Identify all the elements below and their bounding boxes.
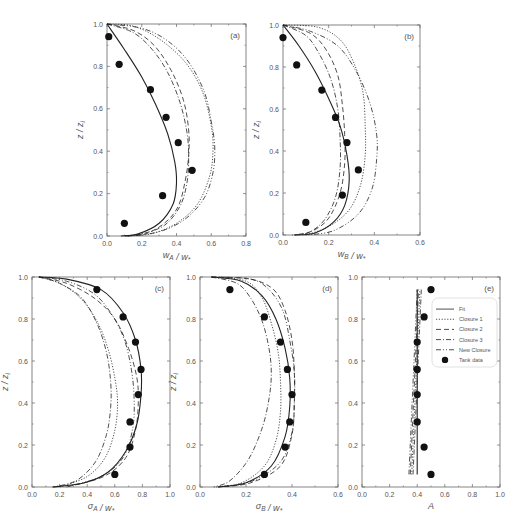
x-axis-label: σA / w* bbox=[88, 501, 115, 514]
legend-entry-label: Closure 2 bbox=[459, 326, 483, 332]
tank-data-point bbox=[111, 471, 118, 478]
curve-closure-2 bbox=[107, 24, 189, 236]
y-tick-label: 0.8 bbox=[18, 316, 28, 323]
y-tick-label: 0.2 bbox=[186, 442, 196, 449]
y-tick-label: 1.0 bbox=[186, 274, 196, 281]
plot-frame bbox=[32, 277, 170, 487]
x-tick-label: 0.4 bbox=[412, 491, 422, 498]
x-tick-label: 0.0 bbox=[102, 240, 112, 247]
y-tick-label: 1.0 bbox=[18, 274, 28, 281]
y-tick-label: 1.0 bbox=[93, 21, 103, 28]
tank-data-point bbox=[427, 286, 434, 293]
tank-data-point bbox=[279, 34, 286, 41]
panel-b: 0.00.20.40.60.00.20.40.60.81.0wB / w*z /… bbox=[251, 22, 425, 263]
tank-data-point bbox=[302, 219, 309, 226]
tank-data-point bbox=[282, 444, 289, 451]
curve-closure-1 bbox=[283, 25, 366, 235]
x-tick-label: 0.8 bbox=[468, 491, 478, 498]
panel-label: (b) bbox=[404, 32, 414, 41]
x-axis-label: A bbox=[427, 501, 434, 511]
y-tick-label: 0.2 bbox=[93, 190, 103, 197]
x-tick-label: 0.0 bbox=[278, 239, 288, 246]
tank-data-point bbox=[162, 114, 169, 121]
y-tick-label: 0.0 bbox=[348, 484, 358, 491]
y-tick-label: 0.4 bbox=[348, 400, 358, 407]
tank-data-point bbox=[414, 366, 421, 373]
tank-data-point bbox=[261, 313, 268, 320]
tank-data-point bbox=[355, 166, 362, 173]
tank-data-point bbox=[147, 86, 154, 93]
panel-label: (d) bbox=[322, 284, 332, 293]
tank-data-point bbox=[318, 87, 325, 94]
x-tick-label: 0.2 bbox=[324, 239, 334, 246]
y-tick-label: 0.6 bbox=[186, 358, 196, 365]
x-tick-label: 0.2 bbox=[137, 240, 147, 247]
tank-data-point bbox=[105, 33, 112, 40]
x-tick-label: 0.2 bbox=[55, 491, 65, 498]
x-axis-label: wB / w* bbox=[338, 249, 366, 262]
tank-data-point bbox=[116, 61, 123, 68]
tank-data-point bbox=[175, 139, 182, 146]
y-axis-label: z / zi bbox=[251, 120, 262, 140]
legend-entry-label: Tank data bbox=[459, 357, 484, 363]
tank-data-point bbox=[339, 192, 346, 199]
y-tick-label: 0.2 bbox=[18, 442, 28, 449]
x-tick-label: 0.6 bbox=[333, 491, 343, 498]
y-tick-label: 0.2 bbox=[348, 442, 358, 449]
y-tick-label: 1.0 bbox=[348, 274, 358, 281]
panel-c: 0.00.20.40.60.81.00.00.20.40.60.81.0σA /… bbox=[0, 274, 175, 515]
curve-closure-2 bbox=[212, 277, 295, 487]
tank-data-point bbox=[126, 418, 133, 425]
plot-frame bbox=[200, 277, 338, 487]
tank-data-point bbox=[414, 339, 421, 346]
legend: FitClosure 1Closure 2Closure 3New Closur… bbox=[432, 298, 497, 367]
tank-data-point bbox=[132, 339, 139, 346]
plot-frame bbox=[283, 25, 420, 235]
y-tick-label: 0.6 bbox=[348, 358, 358, 365]
curve-closure-3 bbox=[283, 25, 341, 235]
tank-data-point bbox=[284, 366, 291, 373]
curve-new-closure bbox=[212, 277, 295, 487]
x-tick-label: 0.0 bbox=[27, 491, 37, 498]
tank-data-point bbox=[137, 366, 144, 373]
curve-closure-3 bbox=[39, 277, 111, 487]
legend-marker-icon bbox=[442, 357, 448, 363]
y-tick-label: 0.6 bbox=[269, 106, 279, 113]
y-tick-label: 0.8 bbox=[93, 63, 103, 70]
x-tick-label: 0.8 bbox=[241, 240, 251, 247]
y-tick-label: 0.0 bbox=[186, 484, 196, 491]
tank-data-point bbox=[121, 220, 128, 227]
tank-data-point bbox=[135, 391, 142, 398]
y-tick-label: 0.4 bbox=[18, 400, 28, 407]
x-tick-label: 1.0 bbox=[165, 491, 175, 498]
tank-data-point bbox=[286, 418, 293, 425]
tank-data-point bbox=[293, 61, 300, 68]
y-tick-label: 1.0 bbox=[269, 22, 279, 29]
y-tick-label: 0.8 bbox=[348, 316, 358, 323]
panel-a: 0.00.20.40.60.80.00.20.40.60.81.0wA / w*… bbox=[75, 21, 251, 264]
x-tick-label: 0.6 bbox=[440, 491, 450, 498]
tank-data-point bbox=[119, 313, 126, 320]
legend-entry-label: New Closure bbox=[459, 347, 490, 353]
x-axis-label: wA / w* bbox=[163, 250, 191, 263]
y-tick-label: 0.4 bbox=[93, 148, 103, 155]
y-tick-label: 0.8 bbox=[186, 316, 196, 323]
tank-data-point bbox=[332, 114, 339, 121]
tank-data-point bbox=[277, 339, 284, 346]
y-tick-label: 0.2 bbox=[269, 190, 279, 197]
legend-entry-label: Closure 3 bbox=[459, 337, 483, 343]
curve-closure-1 bbox=[107, 24, 213, 236]
panel-label: (c) bbox=[155, 284, 165, 293]
tank-data-point bbox=[343, 139, 350, 146]
x-tick-label: 0.0 bbox=[195, 491, 205, 498]
y-tick-label: 0.4 bbox=[186, 400, 196, 407]
x-tick-label: 0.4 bbox=[369, 239, 379, 246]
panel-d: 0.00.20.40.60.00.20.40.60.81.0σB / w*z /… bbox=[168, 274, 343, 515]
curve-closure-3 bbox=[212, 277, 272, 487]
x-tick-label: 0.6 bbox=[415, 239, 425, 246]
y-tick-label: 0.4 bbox=[269, 148, 279, 155]
y-tick-label: 0.0 bbox=[18, 484, 28, 491]
x-tick-label: 0.2 bbox=[385, 491, 395, 498]
legend-entry-label: Fit bbox=[459, 306, 466, 312]
y-tick-label: 0.6 bbox=[18, 358, 28, 365]
